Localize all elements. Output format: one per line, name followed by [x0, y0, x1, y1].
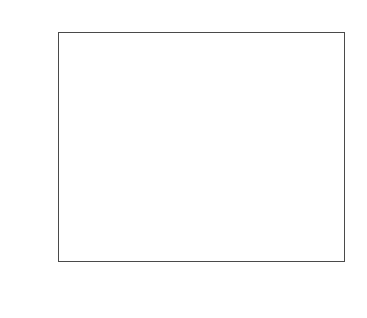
data-layer [59, 33, 345, 262]
plot-area [58, 32, 345, 262]
figure-panel-a [0, 0, 367, 318]
